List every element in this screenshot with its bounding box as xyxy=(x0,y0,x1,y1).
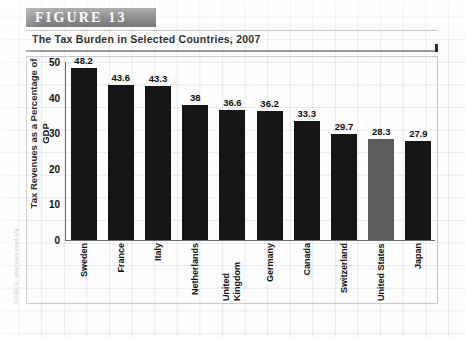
bar-item: 36.6 xyxy=(219,110,245,240)
bar-item: 38 xyxy=(182,105,208,240)
category-label-slot: Canada xyxy=(294,243,320,303)
bar-rect: 27.9 xyxy=(405,141,431,240)
bar-item: 48.2 xyxy=(71,68,97,240)
bar-rect: 29.7 xyxy=(331,134,357,240)
x-axis-category-labels: SwedenFranceItalyNetherlandsUnited Kingd… xyxy=(65,243,437,305)
figure-page: FIGURE 13 The Tax Burden in Selected Cou… xyxy=(0,0,465,337)
category-label: Germany xyxy=(264,243,275,282)
source-note: SOURCE: www.stats.oecd.org xyxy=(13,201,19,305)
bar-rect: 36.6 xyxy=(219,110,245,240)
x-axis-line xyxy=(65,240,435,241)
category-label: Switzerland xyxy=(339,243,350,293)
category-label: Italy xyxy=(153,243,164,261)
title-rule-endcap-mark xyxy=(435,44,438,52)
bar-item: 43.3 xyxy=(145,86,171,240)
category-label-slot: Netherlands xyxy=(182,243,208,303)
bar-value-label: 48.2 xyxy=(74,55,93,66)
title-rule-bottom xyxy=(26,50,438,52)
bar-value-label: 27.9 xyxy=(409,128,428,139)
bar-item: 27.9 xyxy=(405,141,431,240)
category-label: Sweden xyxy=(78,243,89,277)
category-label-slot: Italy xyxy=(145,243,171,303)
bar-rect: 36.2 xyxy=(257,111,283,240)
bar-rect: 48.2 xyxy=(71,68,97,240)
category-label-slot: Sweden xyxy=(71,243,97,303)
title-rule-top xyxy=(26,30,438,31)
bar-item: 43.6 xyxy=(108,85,134,240)
category-label-slot: United Kingdom xyxy=(219,243,245,303)
bar-value-label: 28.3 xyxy=(372,126,391,137)
category-label: United Kingdom xyxy=(221,243,243,301)
bar-rect: 43.3 xyxy=(145,86,171,240)
bar-value-label: 29.7 xyxy=(335,121,354,132)
bar-series: 48.243.643.33836.636.233.329.728.327.9 xyxy=(65,56,437,240)
category-label: United States xyxy=(376,243,387,301)
bar-value-label: 36.2 xyxy=(260,98,279,109)
figure-title: The Tax Burden in Selected Countries, 20… xyxy=(32,33,432,45)
category-label-slot: France xyxy=(108,243,134,303)
figure-number-label: FIGURE 13 xyxy=(26,8,156,27)
category-label-slot: Germany xyxy=(257,243,283,303)
category-label: France xyxy=(115,243,126,273)
bar-item: 28.3 xyxy=(368,139,394,240)
category-label-slot: Switzerland xyxy=(331,243,357,303)
bar-item: 33.3 xyxy=(294,121,320,240)
y-tick-label: 0 xyxy=(34,235,60,246)
bar-value-label: 43.3 xyxy=(149,73,168,84)
category-label: Canada xyxy=(301,243,312,276)
bar-rect: 38 xyxy=(182,105,208,240)
category-label-slot: Japan xyxy=(405,243,431,303)
bar-value-label: 33.3 xyxy=(298,108,317,119)
bar-rect: 33.3 xyxy=(294,121,320,240)
y-axis-title: Tax Revenues as a Percentage of GDP xyxy=(28,59,51,209)
category-label: Netherlands xyxy=(190,243,201,295)
category-label: Japan xyxy=(413,243,424,269)
bar-value-label: 38 xyxy=(190,92,201,103)
bar-value-label: 43.6 xyxy=(112,72,131,83)
bar-rect: 28.3 xyxy=(368,139,394,240)
bar-item: 29.7 xyxy=(331,134,357,240)
figure-number-band: FIGURE 13 xyxy=(26,8,156,27)
category-label-slot: United States xyxy=(368,243,394,303)
bar-value-label: 36.6 xyxy=(223,97,242,108)
bar-item: 36.2 xyxy=(257,111,283,240)
bar-rect: 43.6 xyxy=(108,85,134,240)
